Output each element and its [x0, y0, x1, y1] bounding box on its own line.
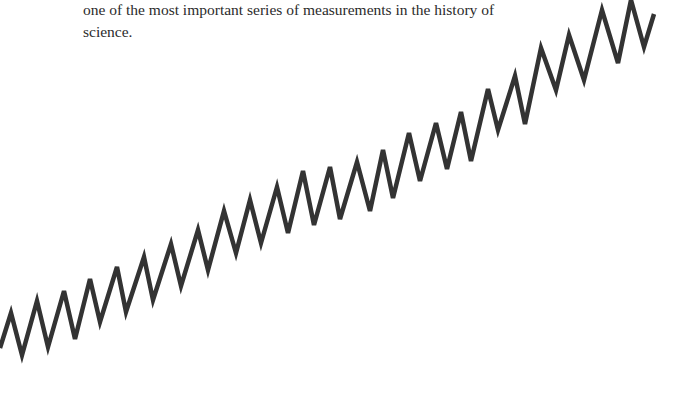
sawtooth-line-chart — [0, 0, 690, 408]
data-series-line — [0, 0, 654, 355]
